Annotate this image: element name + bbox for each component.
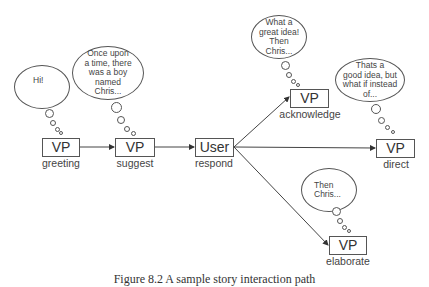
node-direct-box: VP xyxy=(376,139,415,158)
thought-dot xyxy=(385,125,390,130)
thought-dot xyxy=(296,83,300,87)
figure-caption: Figure 8.2 A sample story interaction pa… xyxy=(0,272,429,287)
thought-dot xyxy=(371,104,381,114)
thought-dot xyxy=(111,102,122,113)
node-acknowledge-box: VP xyxy=(290,89,329,108)
thought-dot xyxy=(337,218,343,224)
node-greeting-label: greeting xyxy=(31,157,91,169)
node-direct-label: direct xyxy=(366,158,426,170)
thought-dot xyxy=(281,61,290,70)
thought-dot xyxy=(50,120,56,126)
edge-respond-direct xyxy=(234,147,375,148)
thought-dot xyxy=(45,109,54,118)
thought-dot xyxy=(378,117,385,124)
thought-bubble-suggest: Once upon a time, there was a boy named … xyxy=(72,46,144,100)
thought-dot xyxy=(391,130,395,134)
node-elaborate-label: elaborate xyxy=(318,255,378,267)
thought-bubble-elaborate: Then Chris... xyxy=(301,168,357,212)
thought-bubble-direct: Thats a good idea, but what if instead o… xyxy=(335,58,405,102)
thought-bubble-acknowledge: What a great idea! Then Chris... xyxy=(251,15,307,59)
node-suggest-box: VP xyxy=(115,138,155,157)
node-acknowledge-label: acknowledge xyxy=(275,108,345,120)
node-respond-label: respond xyxy=(184,157,244,169)
thought-dot xyxy=(332,207,341,216)
thought-dot xyxy=(286,72,292,78)
thought-dot xyxy=(131,131,136,136)
thought-dot xyxy=(117,116,125,124)
edge-respond-acknowledge xyxy=(234,97,289,147)
thought-dot xyxy=(124,126,130,132)
node-elaborate-box: VP xyxy=(329,236,367,255)
node-greeting-box: VP xyxy=(42,138,80,157)
node-respond-box: User xyxy=(195,138,234,157)
node-suggest-label: suggest xyxy=(105,157,165,169)
thought-dot xyxy=(347,229,351,233)
thought-dot xyxy=(59,131,63,135)
thought-bubble-greeting: Hi! xyxy=(14,65,70,109)
